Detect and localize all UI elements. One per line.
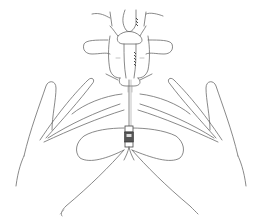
spinal-needle (124, 80, 134, 160)
medical-illustration (0, 0, 262, 224)
lumbar-vertebrae (83, 10, 172, 92)
right-hand (132, 78, 246, 214)
line-drawing (0, 0, 262, 224)
needle-hub (125, 126, 134, 147)
left-hand (16, 78, 124, 216)
